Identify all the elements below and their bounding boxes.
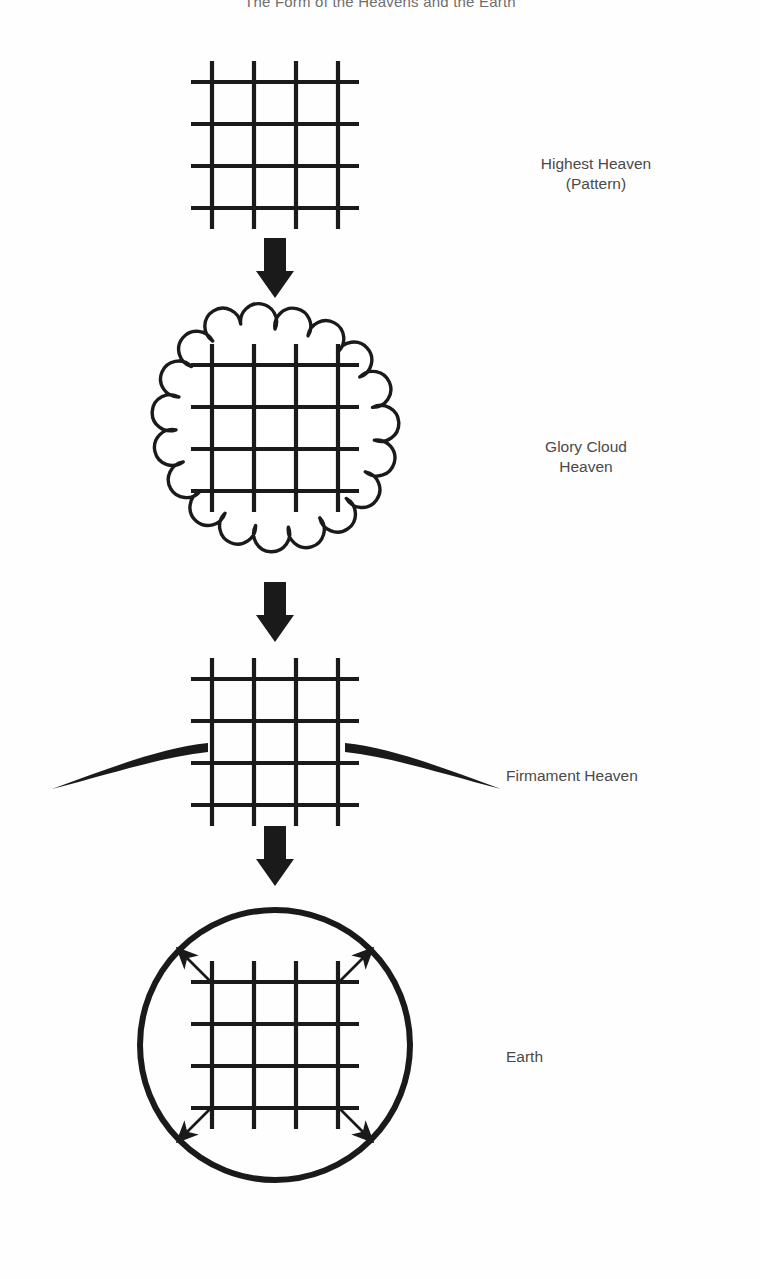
stage-earth bbox=[140, 910, 410, 1180]
stage-highest-heaven bbox=[191, 61, 359, 229]
stage-glory-cloud-heaven bbox=[152, 304, 399, 552]
diagram-page: The Form of the Heavens and the Earth bbox=[0, 0, 760, 1279]
grid-pattern-highest bbox=[191, 61, 359, 229]
grid-pattern-firmament bbox=[191, 658, 359, 826]
earth-arrow-up-right bbox=[338, 949, 372, 983]
firmament-arc-left bbox=[52, 743, 208, 789]
stage-firmament-heaven bbox=[52, 658, 501, 826]
stage-label-firmament-heaven: Firmament Heaven bbox=[506, 766, 736, 786]
earth-radiating-arrows bbox=[178, 949, 372, 1141]
earth-arrow-up-left bbox=[178, 949, 212, 983]
stage-label-earth: Earth bbox=[506, 1047, 666, 1067]
stage-label-glory-cloud-heaven: Glory Cloud Heaven bbox=[506, 437, 666, 477]
earth-arrow-down-right bbox=[338, 1107, 372, 1141]
stage-label-highest-heaven: Highest Heaven (Pattern) bbox=[506, 154, 686, 194]
cloud-outline bbox=[152, 304, 399, 552]
earth-arrow-down-left bbox=[178, 1107, 212, 1141]
grid-pattern-earth bbox=[191, 961, 359, 1129]
firmament-arc-right bbox=[345, 743, 501, 789]
connector-arrow-1 bbox=[256, 238, 294, 298]
connector-arrow-2 bbox=[256, 582, 294, 642]
connector-arrow-3 bbox=[256, 826, 294, 886]
